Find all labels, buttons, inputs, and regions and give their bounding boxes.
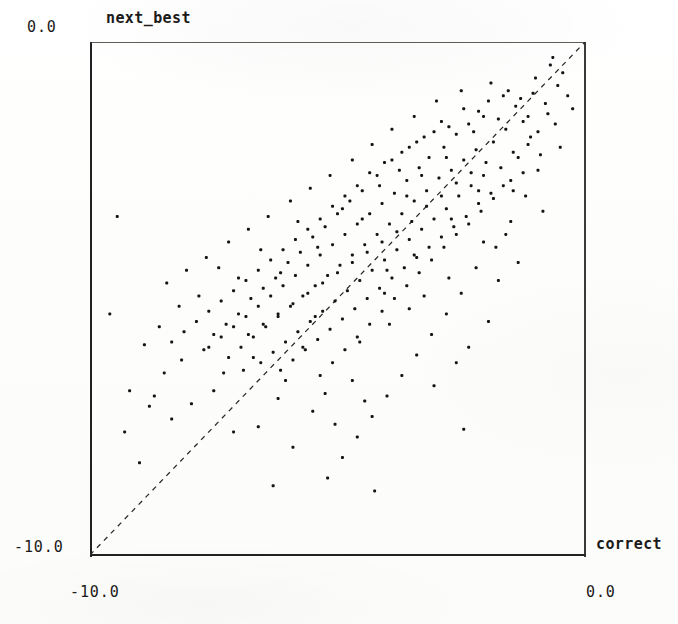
data-point — [304, 348, 307, 351]
data-point — [440, 235, 443, 238]
data-point — [324, 392, 327, 395]
data-point — [400, 151, 403, 154]
data-point — [475, 148, 478, 151]
data-point — [376, 233, 379, 236]
data-point — [351, 158, 354, 161]
data-point — [363, 400, 366, 403]
data-point — [259, 248, 262, 251]
data-point — [237, 312, 240, 315]
data-point — [336, 212, 339, 215]
data-point — [489, 82, 492, 85]
data-point — [400, 212, 403, 215]
data-point — [108, 312, 111, 315]
data-point — [326, 477, 329, 480]
data-point — [482, 241, 485, 244]
data-point — [462, 428, 465, 431]
data-point — [334, 423, 337, 426]
data-point — [329, 328, 332, 331]
data-point — [437, 176, 440, 179]
data-point — [398, 169, 401, 172]
data-point — [289, 200, 292, 203]
data-point — [244, 315, 247, 318]
data-point — [549, 64, 552, 67]
data-point — [346, 289, 349, 292]
data-point — [447, 125, 450, 128]
data-point — [509, 220, 512, 223]
data-point — [338, 264, 341, 267]
data-point — [351, 379, 354, 382]
data-point — [356, 436, 359, 439]
data-point — [408, 307, 411, 310]
data-point — [393, 297, 396, 300]
scatter-points-layer — [108, 56, 574, 492]
y-axis-tick-label-max: 0.0 — [27, 18, 57, 36]
data-point — [252, 335, 255, 338]
data-point — [368, 212, 371, 215]
data-point — [284, 341, 287, 344]
data-point — [509, 179, 512, 182]
data-point — [311, 410, 314, 413]
data-point — [539, 153, 542, 156]
data-point — [433, 130, 436, 133]
data-point — [556, 84, 559, 87]
data-point — [455, 233, 458, 236]
data-point — [368, 323, 371, 326]
data-point — [165, 282, 168, 285]
data-point — [287, 261, 290, 264]
data-point — [341, 318, 344, 321]
data-point — [442, 146, 445, 149]
data-point — [418, 271, 421, 274]
data-point — [460, 89, 463, 92]
data-point — [378, 287, 381, 290]
data-point — [532, 92, 535, 95]
data-point — [262, 287, 265, 290]
data-point — [301, 294, 304, 297]
data-point — [507, 89, 510, 92]
scatter-plot-figure: 0.0 -10.0 -10.0 0.0 next_best correct — [0, 0, 678, 624]
data-point — [244, 279, 247, 282]
data-point — [475, 266, 478, 269]
data-point — [388, 223, 391, 226]
data-point — [445, 312, 448, 315]
data-point — [455, 182, 458, 185]
data-point — [257, 425, 260, 428]
data-point — [232, 325, 235, 328]
data-point — [272, 484, 275, 487]
data-point — [477, 202, 480, 205]
data-point — [185, 269, 188, 272]
data-point — [433, 217, 436, 220]
data-point — [536, 130, 539, 133]
data-point — [311, 235, 314, 238]
data-point — [232, 430, 235, 433]
data-point — [415, 141, 418, 144]
data-point — [544, 102, 547, 105]
data-point — [306, 264, 309, 267]
x-axis-tick-label-min: -10.0 — [70, 583, 120, 601]
data-point — [487, 100, 490, 103]
data-point — [306, 292, 309, 295]
data-point — [480, 210, 483, 213]
data-point — [195, 320, 198, 323]
data-point — [497, 117, 500, 120]
data-point — [220, 335, 223, 338]
data-point — [485, 161, 488, 164]
data-point — [497, 279, 500, 282]
data-point — [368, 171, 371, 174]
data-point — [373, 489, 376, 492]
data-point — [183, 330, 186, 333]
data-point — [378, 184, 381, 187]
data-point — [220, 300, 223, 303]
data-point — [284, 379, 287, 382]
data-point — [334, 300, 337, 303]
data-point — [519, 97, 522, 100]
data-point — [227, 241, 230, 244]
data-point — [351, 253, 354, 256]
data-point — [403, 266, 406, 269]
data-point — [358, 279, 361, 282]
data-point — [492, 141, 495, 144]
data-point — [470, 184, 473, 187]
data-point — [249, 297, 252, 300]
plot-data-area — [90, 42, 585, 555]
data-point — [232, 289, 235, 292]
data-point — [571, 107, 574, 110]
